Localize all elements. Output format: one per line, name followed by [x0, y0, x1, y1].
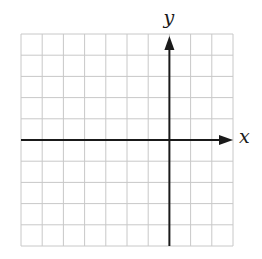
grid	[0, 0, 262, 259]
x-axis-arrow-icon	[219, 135, 233, 145]
y-axis-label: y	[163, 8, 174, 27]
coordinate-plane: x y	[0, 0, 262, 259]
y-axis-arrow-icon	[164, 36, 174, 50]
x-axis-label: x	[239, 127, 250, 146]
